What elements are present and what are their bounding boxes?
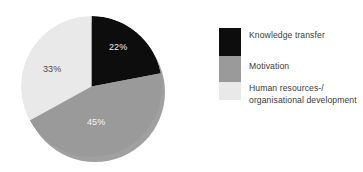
pie-disc: [21, 16, 162, 157]
legend-label-knowledge-transfer: Knowledge transfer: [249, 30, 325, 42]
legend-swatch-human-resources: [219, 82, 241, 100]
pie-chart-figure: 22% 45% 33% Knowledge transfer Motivatio…: [0, 0, 363, 172]
legend-swatch-motivation: [219, 56, 241, 82]
legend-label-human-resources: Human resources-/ organisational develop…: [249, 83, 357, 106]
pie-chart: 22% 45% 33%: [21, 16, 165, 162]
legend-swatch-knowledge-transfer: [219, 28, 241, 56]
pie-slices-svg: [21, 16, 162, 157]
legend-label-motivation: Motivation: [249, 61, 289, 73]
